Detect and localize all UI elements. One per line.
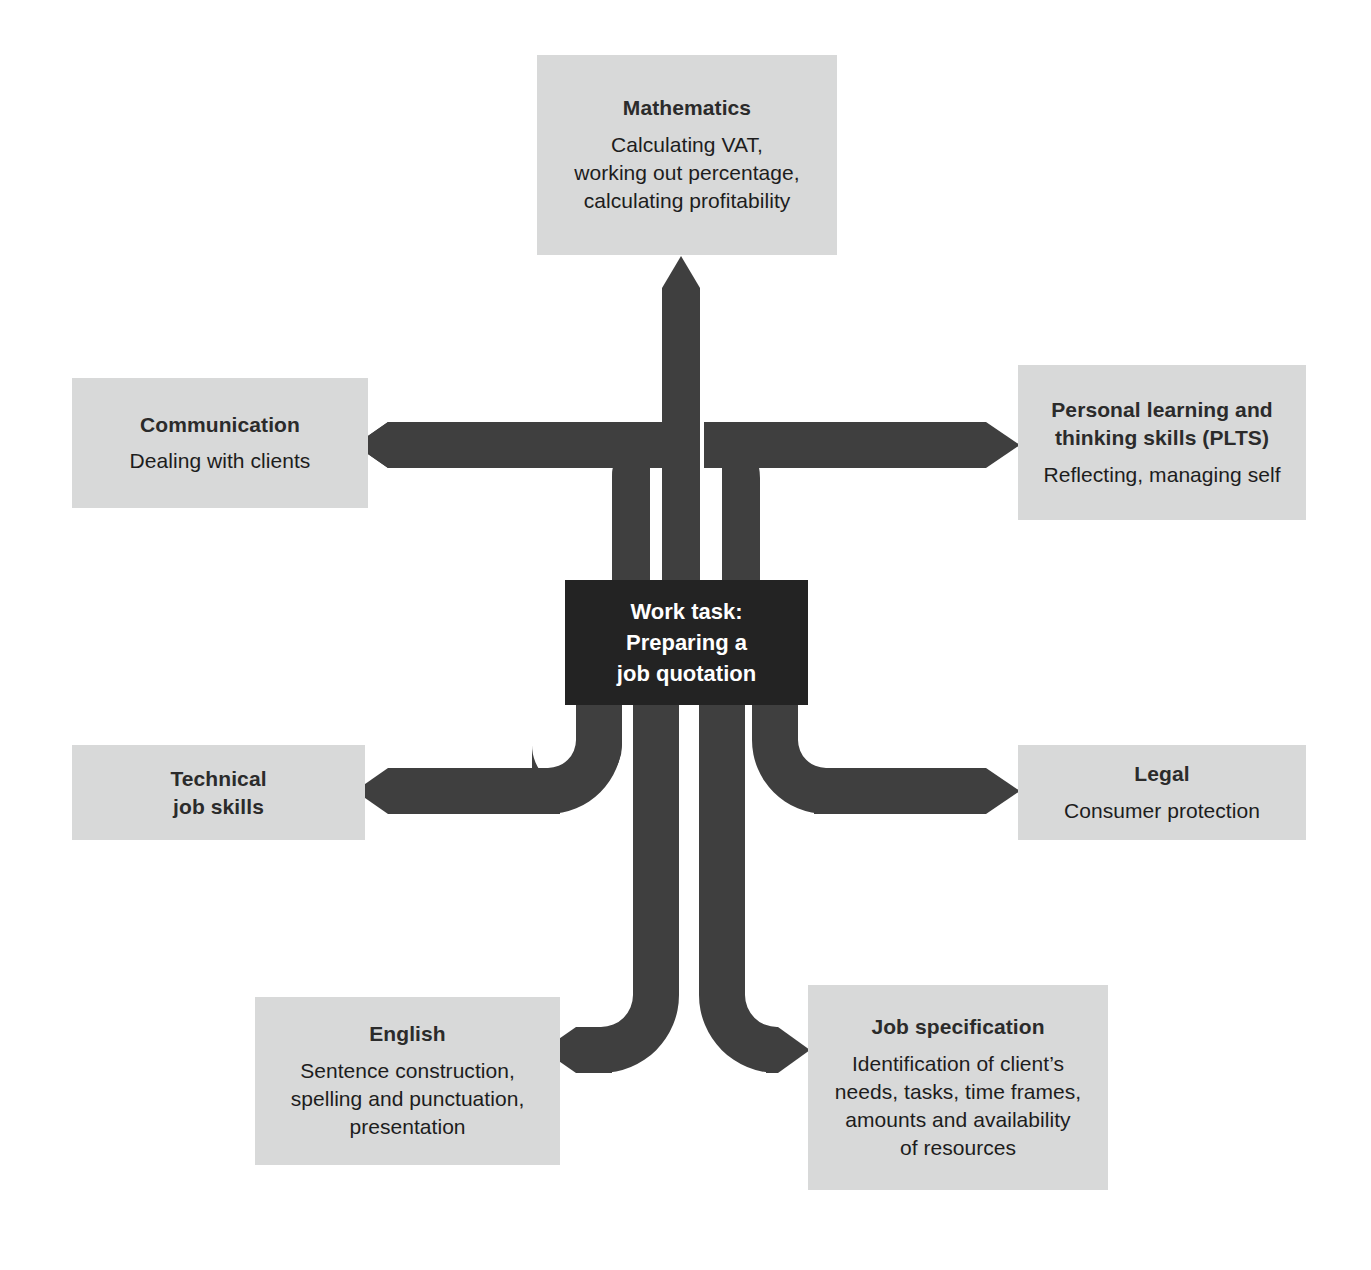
node-communication-title: Communication: [140, 411, 300, 439]
center-line-2: Preparing a: [626, 627, 747, 658]
node-plts[interactable]: Personal learning andthinking skills (PL…: [1018, 365, 1306, 520]
node-plts-title: Personal learning andthinking skills (PL…: [1051, 396, 1273, 451]
node-mathematics-desc: Calculating VAT,working out percentage,c…: [574, 131, 799, 215]
node-technical-title: Technicaljob skills: [170, 765, 266, 820]
center-line-1: Work task:: [630, 596, 742, 627]
arrow-to-communication-stem: [612, 422, 668, 580]
node-mathematics[interactable]: Mathematics Calculating VAT,working out …: [537, 55, 837, 255]
center-line-3: job quotation: [617, 658, 756, 689]
arrow-to-jobspec-shaft: [766, 1027, 810, 1073]
node-legal[interactable]: Legal Consumer protection: [1018, 745, 1306, 840]
arrow-to-legal-joint: [752, 705, 826, 814]
arrow-to-plts-shaft: [704, 422, 1020, 468]
node-mathematics-title: Mathematics: [623, 94, 751, 122]
arrow-to-plts-stem: [704, 422, 760, 580]
arrow-to-legal-shaft: [814, 768, 1020, 814]
arrow-to-jobspec-joint: [699, 705, 777, 1073]
arrow-to-technical-shaft: [355, 768, 560, 814]
node-plts-desc: Reflecting, managing self: [1043, 461, 1280, 489]
node-legal-desc: Consumer protection: [1064, 797, 1260, 825]
arrow-to-technical-curve: [556, 705, 622, 799]
node-english[interactable]: English Sentence construction,spelling a…: [255, 997, 560, 1165]
arrow-to-english-joint: [601, 705, 679, 1073]
arrow-to-communication: [355, 422, 668, 580]
node-jobspec-title: Job specification: [871, 1013, 1044, 1041]
arrow-to-communication-shaft: [355, 422, 668, 468]
node-legal-title: Legal: [1134, 760, 1189, 788]
node-job-specification[interactable]: Job specification Identification of clie…: [808, 985, 1108, 1190]
node-jobspec-desc: Identification of client’sneeds, tasks, …: [835, 1050, 1081, 1163]
node-communication[interactable]: Communication Dealing with clients: [72, 378, 368, 508]
diagram-canvas: Work task: Preparing a job quotation Mat…: [0, 0, 1371, 1270]
node-technical-job-skills[interactable]: Technicaljob skills: [72, 745, 365, 840]
node-english-desc: Sentence construction,spelling and punct…: [291, 1057, 525, 1141]
arrow-to-mathematics: [662, 256, 700, 580]
arrow-to-technical-joint: [548, 705, 622, 814]
node-english-title: English: [369, 1020, 446, 1048]
center-node-work-task[interactable]: Work task: Preparing a job quotation: [565, 580, 808, 705]
node-communication-desc: Dealing with clients: [130, 447, 311, 475]
arrow-to-technical-stem: [532, 705, 622, 791]
